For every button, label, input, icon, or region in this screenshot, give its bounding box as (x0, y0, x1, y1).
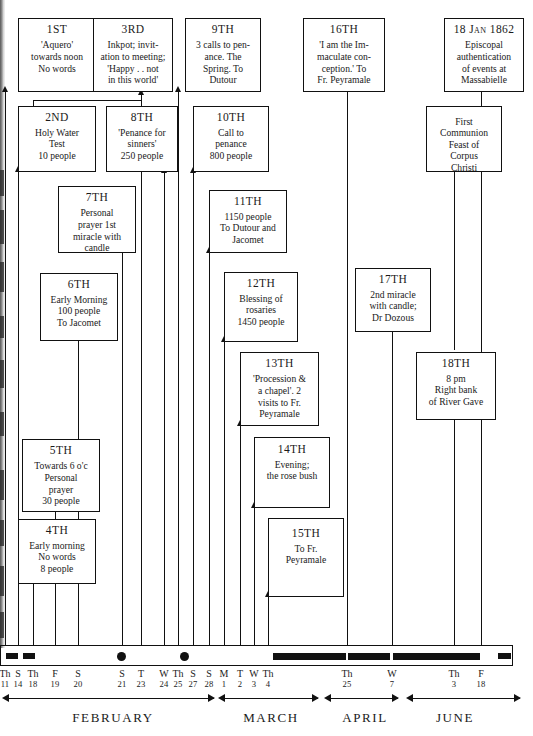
connector-line-12th (224, 342, 225, 645)
box-first-communion[interactable]: First Communion Feast of Corpus Christi (426, 106, 502, 172)
box-body-text: Blessing of rosaries 1450 people (227, 293, 295, 327)
connector-line-3rd (141, 95, 142, 645)
month-label-april: APRIL (330, 710, 400, 726)
box-day-label: 7TH (61, 191, 133, 204)
connector-line-15th (268, 597, 269, 645)
baseline-heavy-bar (348, 653, 390, 660)
box-15th[interactable]: 15TH To Fr. Peyramale (268, 518, 344, 597)
scan-speck (0, 566, 4, 596)
tick-num: 18 (465, 679, 497, 690)
month-arrow-right-march (312, 694, 319, 702)
box-body-text: 8 pm Right bank of River Gave (419, 373, 493, 407)
tick-num: 7 (376, 679, 408, 690)
scan-speck (0, 520, 4, 546)
connector-line-4th (33, 584, 34, 645)
box-body-text: 'Procession & a chapel'. 2 visits to Fr.… (243, 373, 316, 420)
tick-dow: Th (252, 668, 284, 679)
connector-line-7th (122, 253, 123, 645)
box-day-label: 12TH (227, 277, 295, 290)
box-3rd[interactable]: 3RD Inkpot; invit- ation to meeting; 'Ha… (93, 18, 173, 92)
box-body-text: Call to penance 800 people (196, 127, 266, 161)
scan-speck (0, 262, 4, 292)
scan-speck (0, 412, 4, 436)
box-5th[interactable]: 5TH Towards 6 o'c Personal prayer 30 peo… (22, 439, 100, 512)
connector-line-9th (178, 92, 179, 645)
tick-label: W 7 (376, 668, 408, 690)
connector-line-1st (5, 92, 6, 645)
tick-label: S 20 (62, 668, 94, 690)
box-body-text: 'Aquero' towards noon No words (21, 39, 93, 74)
scan-speck (0, 170, 4, 196)
box-12th[interactable]: 12TH Blessing of rosaries 1450 people (224, 272, 298, 342)
month-arrow-right-april (392, 694, 399, 702)
month-arrow-right-february (208, 694, 215, 702)
baseline-marker-bar (6, 653, 18, 659)
connector-line-13th (240, 426, 241, 645)
box-9th[interactable]: 9TH 3 calls to pen- ance. The Spring. To… (185, 18, 261, 92)
box-6th[interactable]: 6TH Early Morning 100 people To Jacomet (40, 273, 118, 341)
box-day-label: 9TH (188, 23, 258, 36)
axis-bottom-rule (0, 665, 512, 666)
box-13th[interactable]: 13TH 'Procession & a chapel'. 2 visits t… (240, 352, 319, 426)
box-day-label: 10TH (196, 111, 266, 124)
connector-line-first-communion (454, 172, 455, 350)
tick-label: Th 25 (331, 668, 363, 690)
box-body-text: 2nd miracle with candle; Dr Dozous (358, 289, 428, 323)
box-body-text: Early morning No words 8 people (21, 540, 93, 574)
baseline-heavy-bar (393, 653, 480, 660)
box-day-label: 16TH (306, 23, 382, 36)
box-7th[interactable]: 7TH Personal prayer 1st miracle with can… (58, 186, 136, 253)
box-day-label: 5TH (25, 444, 97, 457)
box-4th[interactable]: 4TH Early morning No words 8 people (18, 519, 96, 584)
baseline-marker-dot (180, 652, 189, 661)
scan-speck (0, 210, 4, 244)
box-10th[interactable]: 10TH Call to penance 800 people (193, 106, 269, 172)
connector-line-17th (392, 332, 393, 645)
scan-speck (0, 316, 4, 338)
tick-num: 4 (252, 679, 284, 690)
box-day-label: 17TH (358, 273, 428, 286)
tick-num: 25 (331, 679, 363, 690)
baseline-marker-bar (498, 653, 511, 659)
box-2nd[interactable]: 2ND Holy Water Test 10 people (18, 106, 96, 172)
month-arrow-right-june (514, 694, 521, 702)
box-body-text: Personal prayer 1st miracle with candle (61, 207, 133, 254)
box-body-text: First Communion Feast of Corpus Christi (429, 116, 499, 173)
box-body-text: 'I am the Im- maculate con- ception.' To… (306, 39, 382, 86)
month-arrow-left-february (2, 694, 9, 702)
box-body-text: 1150 people To Dutour and Jacomet (212, 211, 284, 245)
axis-right-cap (512, 645, 513, 666)
baseline-marker-bar (23, 653, 35, 659)
box-day-label: 18 Jan 1862 (447, 23, 521, 36)
box-1st[interactable]: 1ST 'Aquero' towards noon No words (18, 18, 96, 92)
box-body-text: To Fr. Peyramale (271, 543, 341, 566)
box-day-label: 11TH (212, 195, 284, 208)
connector-line-14th (254, 508, 255, 645)
tick-label: Th 4 (252, 668, 284, 690)
arrowhead-9th (175, 86, 181, 92)
box-day-label: 6TH (43, 278, 115, 291)
box-day-label: 3RD (96, 23, 170, 36)
box-17th[interactable]: 17TH 2nd miracle with candle; Dr Dozous (355, 268, 431, 332)
box-11th[interactable]: 11TH 1150 people To Dutour and Jacomet (209, 190, 287, 253)
axis-left-cap (0, 645, 1, 666)
box-day-label: 15TH (271, 527, 341, 540)
month-arrow-left-march (218, 694, 225, 702)
baseline-heavy-bar (273, 653, 346, 660)
box-day-label: 2ND (21, 111, 93, 124)
connector-line-10th (193, 173, 194, 645)
connector-line-16th (347, 92, 348, 645)
connector-line-8th (164, 173, 165, 645)
tick-dow: F (465, 668, 497, 679)
box-16th[interactable]: 16TH 'I am the Im- maculate con- ception… (303, 18, 385, 92)
connector-line-18th (454, 420, 455, 645)
box-18jan1862[interactable]: 18 Jan 1862 Episcopal authentication of … (444, 18, 524, 92)
box-14th[interactable]: 14TH Evening; the rose bush (254, 437, 330, 508)
month-label-february: FEBRUARY (48, 710, 178, 726)
box-body-text: 'Penance for sinners' 250 people (109, 127, 175, 161)
box-18th[interactable]: 18TH 8 pm Right bank of River Gave (416, 352, 496, 420)
box-8th[interactable]: 8TH 'Penance for sinners' 250 people (106, 106, 178, 172)
box-body-text: Evening; the rose bush (257, 459, 327, 482)
month-label-march: MARCH (228, 710, 314, 726)
box-day-label: 18TH (419, 357, 493, 370)
